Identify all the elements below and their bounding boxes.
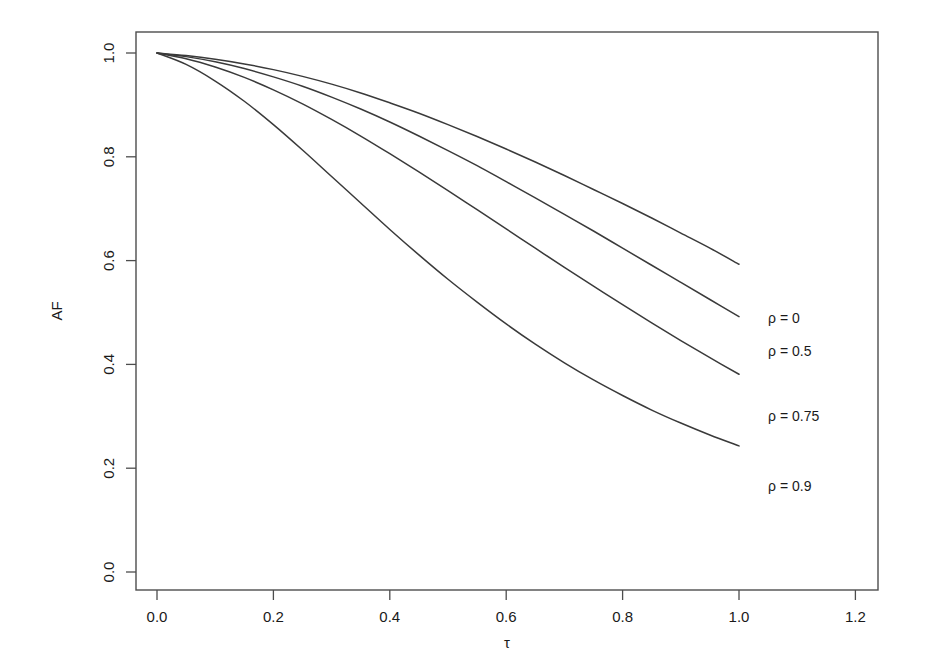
x-tick-label: 1.0 xyxy=(729,608,750,625)
series-label-3: ρ = 0.9 xyxy=(768,478,812,494)
y-axis-title: AF xyxy=(48,301,65,320)
y-tick-label: 0.6 xyxy=(100,250,117,271)
series-label-0: ρ = 0 xyxy=(768,310,800,326)
y-tick-label: 0.4 xyxy=(100,354,117,375)
x-tick-label: 0.8 xyxy=(612,608,633,625)
y-tick-label: 1.0 xyxy=(100,43,117,64)
y-tick-label: 0.0 xyxy=(100,562,117,583)
x-tick-label: 0.4 xyxy=(379,608,400,625)
series-label-2: ρ = 0.75 xyxy=(768,408,819,424)
x-tick-label: 0.2 xyxy=(263,608,284,625)
y-tick-label: 0.2 xyxy=(100,458,117,479)
y-tick-label: 0.8 xyxy=(100,146,117,167)
x-tick-label: 0.0 xyxy=(147,608,168,625)
af-vs-tau-line-chart: 0.00.20.40.60.81.01.2 0.00.20.40.60.81.0… xyxy=(0,0,926,672)
series-label-1: ρ = 0.5 xyxy=(768,343,812,359)
x-tick-label: 0.6 xyxy=(496,608,517,625)
x-axis-title: τ xyxy=(504,634,510,651)
chart-background xyxy=(0,0,926,672)
chart-page: 0.00.20.40.60.81.01.2 0.00.20.40.60.81.0… xyxy=(0,0,926,672)
x-tick-label: 1.2 xyxy=(845,608,866,625)
